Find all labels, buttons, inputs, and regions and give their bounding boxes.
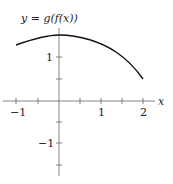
x-tick-label-neg1: −1 <box>10 106 26 119</box>
y-tick-label-neg1: −1 <box>38 137 54 150</box>
x-axis-label: x <box>158 95 165 108</box>
y-tick-label-1: 1 <box>46 51 53 64</box>
chart: y = g(f(x)) x −1 1 2 1 −1 <box>0 0 173 184</box>
chart-plot: y = g(f(x)) x −1 1 2 1 −1 <box>0 0 173 184</box>
chart-title: y = g(f(x)) <box>20 12 78 25</box>
data-line <box>16 35 143 79</box>
x-tick-label-1: 1 <box>98 106 105 119</box>
x-tick-label-2: 2 <box>140 106 147 119</box>
